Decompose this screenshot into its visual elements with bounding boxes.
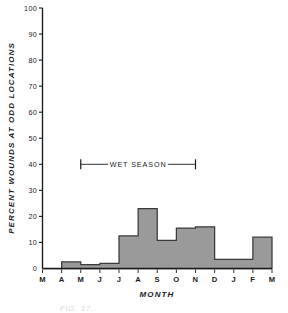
- y-tick-label: 10: [28, 238, 37, 247]
- x-tick-label: F: [250, 275, 255, 284]
- x-tick-label: M: [77, 275, 84, 284]
- x-tick-label: N: [193, 275, 199, 284]
- figure-container: 0102030405060708090100 MAMJJASONDJFM PER…: [0, 0, 288, 313]
- x-tick-label: J: [117, 275, 122, 284]
- x-tick-label: D: [212, 275, 218, 284]
- x-tick-label: S: [155, 275, 160, 284]
- x-tick-label: A: [59, 275, 65, 284]
- x-axis-title: MONTH: [140, 290, 175, 299]
- y-tick-label: 60: [28, 108, 37, 117]
- y-tick-label: 30: [28, 186, 37, 195]
- x-tick-label: J: [231, 275, 236, 284]
- x-tick-label: M: [269, 275, 276, 284]
- y-tick-label: 90: [28, 30, 37, 39]
- y-tick-label: 80: [28, 56, 37, 65]
- figure-caption-partial: FIG. 17.: [60, 304, 94, 313]
- chart-svg: 0102030405060708090100 MAMJJASONDJFM PER…: [0, 0, 288, 313]
- y-tick-label: 70: [28, 82, 37, 91]
- x-tick-label: A: [135, 275, 141, 284]
- y-axis-title: PERCENT WOUNDS AT ODD LOCATIONS: [7, 42, 16, 234]
- x-tick-label: J: [98, 275, 103, 284]
- x-tick-label: M: [39, 275, 46, 284]
- x-tick-label: O: [173, 275, 179, 284]
- y-tick-label: 50: [28, 134, 37, 143]
- wet-season-label: WET SEASON: [110, 160, 167, 169]
- y-tick-label: 100: [24, 4, 37, 13]
- y-tick-label: 20: [28, 212, 37, 221]
- y-tick-label: 40: [28, 160, 37, 169]
- y-tick-label: 0: [33, 264, 37, 273]
